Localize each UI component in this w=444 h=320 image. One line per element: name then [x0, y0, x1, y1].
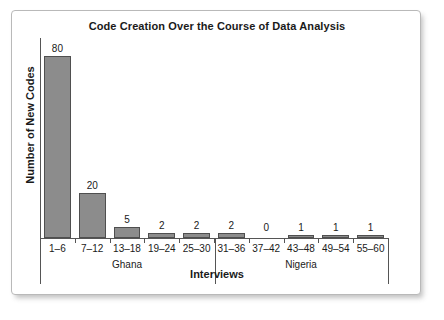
bar — [322, 235, 349, 238]
bar — [79, 193, 106, 238]
bar-chart: Code Creation Over the Course of Data An… — [12, 11, 422, 296]
x-tick-label: 25–30 — [179, 243, 214, 254]
y-axis-title: Number of New Codes — [24, 45, 36, 205]
x-tick-label: 49–54 — [318, 243, 353, 254]
x-tick-label: 55–60 — [353, 243, 388, 254]
bar — [288, 235, 315, 238]
bar-value-label: 1 — [353, 222, 388, 233]
x-tick-label: 1–6 — [40, 243, 75, 254]
bar-value-label: 5 — [110, 214, 145, 225]
bar-value-label: 80 — [40, 43, 75, 54]
bar-group: 20 — [75, 38, 110, 238]
bar — [183, 233, 210, 238]
figure-frame: Code Creation Over the Course of Data An… — [11, 10, 421, 295]
x-tick-label: 43–48 — [284, 243, 319, 254]
bar — [148, 233, 175, 238]
bars-layer: 802052220111 — [40, 38, 388, 238]
bar-value-label: 2 — [179, 220, 214, 231]
bar-group: 2 — [179, 38, 214, 238]
bar-group: 2 — [214, 38, 249, 238]
bar — [44, 56, 71, 238]
bar-value-label: 1 — [284, 222, 319, 233]
bar-group: 80 — [40, 38, 75, 238]
bar-value-label: 1 — [318, 222, 353, 233]
x-tick-label: 7–12 — [75, 243, 110, 254]
bar-group: 1 — [318, 38, 353, 238]
bar-value-label: 2 — [214, 220, 249, 231]
bar — [357, 235, 384, 238]
bar-group: 1 — [353, 38, 388, 238]
bar-group: 5 — [110, 38, 145, 238]
bar-value-label: 0 — [249, 222, 284, 233]
x-tick-label: 37–42 — [249, 243, 284, 254]
x-tick-label: 19–24 — [144, 243, 179, 254]
chart-title: Code Creation Over the Course of Data An… — [12, 20, 422, 32]
bar-group: 1 — [284, 38, 319, 238]
bar — [114, 227, 141, 238]
bar-value-label: 20 — [75, 180, 110, 191]
x-axis-title: Interviews — [12, 268, 422, 280]
bar-group: 2 — [144, 38, 179, 238]
bar-value-label: 2 — [144, 220, 179, 231]
bar — [218, 233, 245, 238]
x-tick-label: 31–36 — [214, 243, 249, 254]
x-tick-label: 13–18 — [110, 243, 145, 254]
bar-group: 0 — [249, 38, 284, 238]
